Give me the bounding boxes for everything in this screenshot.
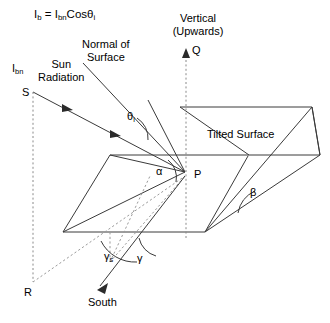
- angle-label-gamma: γ: [137, 252, 143, 265]
- angle-label-beta: β: [250, 186, 256, 199]
- incident-beam-sub: bn: [15, 67, 23, 76]
- sun-ray-line: [33, 92, 185, 172]
- theta-i-arc: [137, 118, 148, 140]
- dashed-surface-azimuth-aux: [110, 176, 150, 262]
- equation-cos: Cos: [67, 8, 87, 20]
- line-P-to-back-corner: [110, 155, 185, 172]
- point-label-P: P: [194, 168, 201, 181]
- solar-geometry-diagram: Ib = IbnCosθi Normal of Surface Vertical…: [0, 0, 330, 323]
- normal-of-surface-line2: Surface: [82, 51, 130, 64]
- tilted-surface-slope-edge: [205, 107, 312, 232]
- incident-beam-label: Ibn: [12, 62, 23, 76]
- south-label: South: [88, 296, 117, 309]
- vertical-label-line2: (Upwards): [160, 25, 236, 38]
- ground-projection-dashed-lines: [33, 176, 185, 282]
- gamma-s-sub: s: [110, 255, 114, 264]
- normal-of-surface-label: Normal of Surface: [82, 38, 130, 63]
- sun-radiation-ray: [33, 92, 185, 172]
- normal-of-surface-line1: Normal of: [82, 38, 130, 51]
- vertical-upwards-label: Vertical (Upwards): [160, 12, 236, 37]
- theta-sub: i: [133, 115, 135, 124]
- point-label-R: R: [24, 286, 32, 299]
- south-arrow: [97, 283, 108, 294]
- line-P-to-upper-left: [148, 100, 185, 172]
- ground-right-edge: [205, 156, 248, 232]
- angle-label-gamma-s: γs: [104, 250, 113, 264]
- angle-label-theta-i: θi: [127, 110, 135, 124]
- sun-ray-arrowheads: [62, 104, 121, 138]
- tilted-surface-right-edge: [312, 107, 320, 155]
- sun-radiation-line1: Sun: [38, 58, 84, 71]
- equation-angle-sub: i: [93, 13, 95, 22]
- south-arrowhead: [97, 283, 108, 294]
- equation-rhs-sub: bn: [58, 13, 67, 22]
- point-label-Q: Q: [192, 44, 201, 57]
- ray-extension-lines: [63, 100, 185, 232]
- equation-equals: =: [42, 8, 55, 20]
- vertical-axis-arrowhead: [182, 48, 190, 58]
- sun-ray-arrow-2: [110, 130, 121, 138]
- point-label-S: S: [22, 86, 29, 99]
- vertical-label-line1: Vertical: [160, 12, 236, 25]
- sun-radiation-label: Sun Radiation: [38, 58, 84, 83]
- tilted-surface-lower-edge: [205, 155, 320, 232]
- angle-label-alpha: α: [156, 165, 162, 178]
- sun-radiation-line2: Radiation: [38, 71, 84, 84]
- dashed-solar-azimuth-projection: [110, 176, 185, 262]
- up-arrow-Q: [182, 48, 190, 58]
- diagram-canvas: [0, 0, 330, 323]
- tilted-surface-label: Tilted Surface: [207, 128, 274, 141]
- sun-ray-arrow-1: [62, 104, 73, 112]
- beam-radiation-equation: Ib = IbnCosθi: [34, 8, 95, 22]
- dashed-R-to-P: [33, 176, 185, 282]
